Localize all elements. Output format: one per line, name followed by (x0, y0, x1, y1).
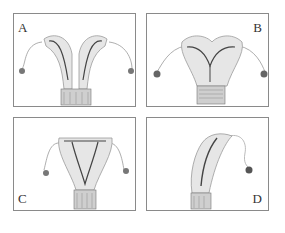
uterus-arcuate-illustration (147, 14, 270, 108)
panel-d: D (146, 117, 269, 211)
uterus-normal-illustration (14, 118, 137, 212)
uterus-unicornuate-illustration (147, 118, 270, 212)
panel-c: C (13, 117, 136, 211)
panel-label-c: C (18, 192, 27, 205)
panel-label-d: D (253, 192, 262, 205)
panel-label-a: A (18, 21, 27, 34)
panel-label-b: B (253, 21, 262, 34)
uterus-septate-illustration (14, 14, 137, 108)
panel-b: B (146, 13, 269, 107)
panel-a: A (13, 13, 136, 107)
